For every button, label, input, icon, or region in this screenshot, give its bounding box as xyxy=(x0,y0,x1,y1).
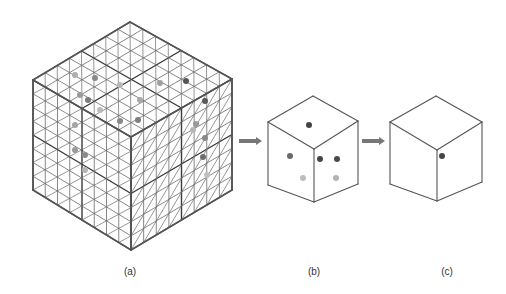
line xyxy=(33,130,119,176)
data-point xyxy=(72,122,78,128)
data-point xyxy=(77,92,83,98)
line xyxy=(131,86,219,236)
data-point xyxy=(82,152,88,158)
line xyxy=(194,148,232,212)
arrow-shaft xyxy=(239,139,257,143)
data-point xyxy=(202,135,208,141)
line xyxy=(181,51,182,109)
data-point xyxy=(334,156,340,162)
data-point xyxy=(135,117,141,123)
line xyxy=(131,101,194,208)
data-point xyxy=(137,97,143,103)
data-point xyxy=(317,156,323,162)
data-point xyxy=(72,147,78,153)
data-point xyxy=(92,75,98,81)
line xyxy=(144,93,232,243)
panel-a-grid-cube xyxy=(33,22,232,250)
data-points xyxy=(439,153,445,159)
line xyxy=(82,51,83,109)
line xyxy=(131,115,169,179)
line xyxy=(70,179,131,212)
panel-c-representative-cube xyxy=(390,96,482,201)
line xyxy=(313,96,358,121)
line xyxy=(45,151,131,197)
line xyxy=(314,121,358,149)
cube-outline xyxy=(390,96,482,201)
line xyxy=(268,185,314,202)
cube-outline xyxy=(268,96,358,202)
data-point xyxy=(306,122,312,128)
data-point xyxy=(97,107,103,113)
line xyxy=(106,37,107,123)
data-point xyxy=(183,78,189,84)
arrow-shaft xyxy=(362,139,380,143)
cube-outline xyxy=(33,22,232,250)
panel-b-label: (b) xyxy=(308,266,320,277)
panel-c-label: (c) xyxy=(441,266,453,277)
data-point xyxy=(193,121,199,127)
data-point xyxy=(333,175,339,181)
line xyxy=(130,22,131,137)
line xyxy=(390,184,437,201)
panel-a-label: (a) xyxy=(124,266,136,277)
data-point xyxy=(72,72,78,78)
line xyxy=(268,96,313,122)
line xyxy=(169,121,232,228)
data-point xyxy=(190,127,196,133)
line xyxy=(119,236,131,243)
line xyxy=(437,122,482,150)
line xyxy=(33,116,94,149)
line xyxy=(390,122,437,150)
panel-b-cell-cube xyxy=(268,96,358,202)
data-point xyxy=(117,118,123,124)
line xyxy=(156,36,157,122)
line xyxy=(436,96,482,122)
line xyxy=(33,87,45,94)
data-point xyxy=(287,153,293,159)
figure-diagram xyxy=(0,0,506,294)
data-point xyxy=(117,82,123,88)
arrow-right-icon xyxy=(379,137,385,145)
data-point xyxy=(85,97,91,103)
data-point xyxy=(300,175,306,181)
data-point xyxy=(200,154,206,160)
arrow-right-icon xyxy=(256,137,262,145)
line xyxy=(314,184,358,202)
arrows xyxy=(239,137,385,145)
data-point xyxy=(82,167,88,173)
line xyxy=(390,96,436,122)
data-point xyxy=(439,153,445,159)
line xyxy=(437,182,482,201)
data-point xyxy=(202,98,208,104)
line xyxy=(168,43,169,115)
data-point xyxy=(204,172,210,178)
data-point xyxy=(157,80,163,86)
